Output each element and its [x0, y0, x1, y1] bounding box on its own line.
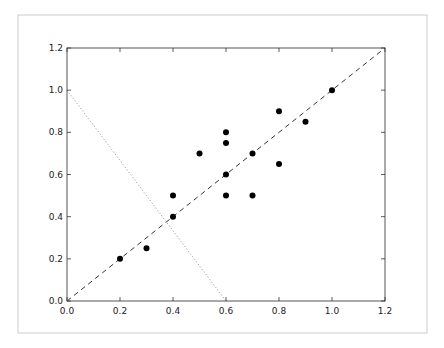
y-tick-label: 0.8 — [49, 127, 64, 137]
data-point — [303, 119, 309, 125]
y-tick-label: 1.2 — [49, 43, 63, 53]
y-tick-label: 0.6 — [49, 170, 64, 180]
x-tick-label: 0.2 — [113, 306, 127, 316]
data-point — [250, 150, 256, 156]
x-tick-label: 0.0 — [60, 306, 75, 316]
data-point — [223, 172, 229, 178]
data-point — [276, 108, 282, 114]
data-point — [170, 214, 176, 220]
x-tick-label: 0.6 — [219, 306, 234, 316]
y-tick-label: 0.4 — [49, 212, 64, 222]
data-point — [223, 129, 229, 135]
data-point — [276, 161, 282, 167]
data-point — [197, 150, 203, 156]
data-point — [144, 245, 150, 251]
x-tick-label: 0.8 — [272, 306, 287, 316]
data-point — [329, 87, 335, 93]
x-tick-label: 1.0 — [325, 306, 340, 316]
scatter-figure: 0.00.20.40.60.81.01.20.00.20.40.60.81.01… — [0, 0, 444, 348]
data-point — [223, 140, 229, 146]
figure-frame — [18, 15, 427, 333]
y-tick-label: 1.0 — [49, 85, 64, 95]
data-point — [250, 193, 256, 199]
y-tick-label: 0.0 — [49, 296, 64, 306]
y-tick-label: 0.2 — [49, 254, 63, 264]
x-tick-label: 0.4 — [166, 306, 181, 316]
data-point — [170, 193, 176, 199]
data-point — [117, 256, 123, 262]
x-tick-label: 1.2 — [378, 306, 392, 316]
data-point — [223, 193, 229, 199]
